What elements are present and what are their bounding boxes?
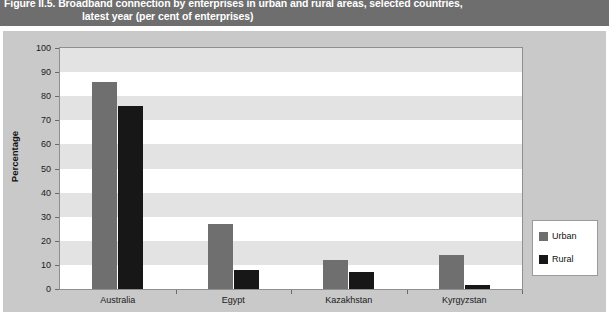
figure-screenshot: Figure II.5. Broadband connection by ent… xyxy=(0,0,609,312)
x-tick-label-kazakhstan: Kazakhstan xyxy=(325,295,372,305)
legend-swatch-rural xyxy=(539,255,548,264)
figure-title-line-1: Figure II.5. Broadband connection by ent… xyxy=(4,0,463,10)
x-tick-mark xyxy=(522,290,523,294)
figure-title-banner: Figure II.5. Broadband connection by ent… xyxy=(0,0,609,26)
figure-title-line-2: latest year (per cent of enterprises) xyxy=(82,10,253,23)
y-tick-label: 40 xyxy=(41,188,51,197)
y-tick-label: 70 xyxy=(41,116,51,125)
bar-urban-kazakhstan xyxy=(323,260,348,289)
bar-rural-egypt xyxy=(234,270,259,289)
x-tick-mark xyxy=(176,290,177,294)
plot-area xyxy=(59,47,523,290)
y-axis-title: Percentage xyxy=(9,122,20,192)
y-tick-label: 50 xyxy=(41,164,51,173)
y-tick-label: 20 xyxy=(41,236,51,245)
legend-item-rural: Rural xyxy=(539,255,574,264)
y-tick-label: 30 xyxy=(41,212,51,221)
y-axis-labels: 1009080706050403020100 xyxy=(19,47,55,290)
bar-urban-kyrgyzstan xyxy=(439,255,464,289)
x-tick-mark xyxy=(407,290,408,294)
y-tick-label: 80 xyxy=(41,92,51,101)
x-tick-label-kyrgyzstan: Kyrgyzstan xyxy=(442,295,487,305)
y-tick-label: 10 xyxy=(41,260,51,269)
y-tick-label: 0 xyxy=(46,285,51,294)
bar-urban-australia xyxy=(92,82,117,289)
legend-swatch-urban xyxy=(539,232,548,241)
bar-urban-egypt xyxy=(208,224,233,289)
bar-rural-kyrgyzstan xyxy=(465,285,490,289)
legend-label-rural: Rural xyxy=(552,255,574,264)
x-tick-label-australia: Australia xyxy=(100,295,135,305)
chart-panel: Percentage 1009080706050403020100 Austra… xyxy=(3,31,606,312)
y-tick-label: 60 xyxy=(41,140,51,149)
y-tick-label: 90 xyxy=(41,68,51,77)
x-tick-label-egypt: Egypt xyxy=(222,295,245,305)
bar-rural-australia xyxy=(118,106,143,289)
y-tick-label: 100 xyxy=(36,44,51,53)
bar-rural-kazakhstan xyxy=(349,272,374,289)
x-tick-mark xyxy=(291,290,292,294)
legend-item-urban: Urban xyxy=(539,232,577,241)
background-band xyxy=(60,48,522,72)
chart-legend: Urban Rural xyxy=(532,220,598,276)
legend-label-urban: Urban xyxy=(552,232,577,241)
